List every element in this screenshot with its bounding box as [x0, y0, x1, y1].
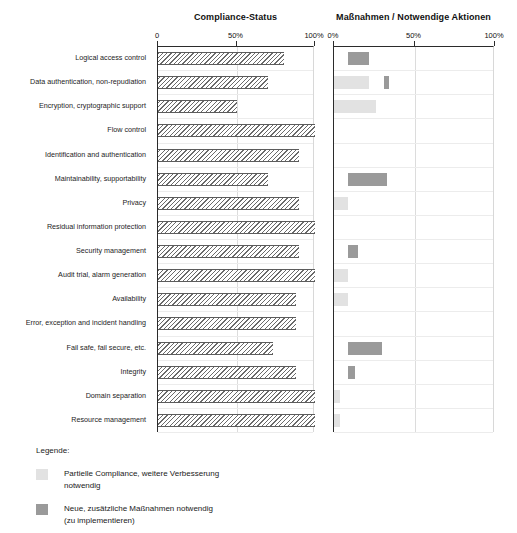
- category-label: Data authentication, non-repudiation: [30, 70, 146, 94]
- category-label: Flow control: [107, 118, 146, 142]
- action-bar-new-measures: [384, 76, 389, 89]
- legend: Legende: Partielle Compliance, weitere V…: [36, 446, 336, 533]
- row-divider: [158, 432, 313, 433]
- table-row: [158, 47, 313, 71]
- table-row: [158, 264, 313, 288]
- table-row: [158, 337, 313, 361]
- table-row: [158, 119, 313, 143]
- table-row: [334, 71, 493, 95]
- category-label: Domain separation: [86, 384, 146, 408]
- table-row: [158, 192, 313, 216]
- legend-swatch: [36, 469, 48, 480]
- right-axis-tickmark-0: [333, 41, 334, 46]
- right-axis-tick-0: 0%: [328, 31, 339, 40]
- left-axis-tickmark-100: [314, 41, 315, 46]
- category-label: Audit trial, alarm generation: [58, 263, 146, 287]
- action-bar-new-measures: [348, 366, 354, 379]
- left-chart-title: Compliance-Status: [157, 12, 314, 22]
- right-axis-tickmark-100: [494, 41, 495, 46]
- compliance-bar: [158, 366, 296, 379]
- compliance-bar: [158, 293, 296, 306]
- table-row: [334, 144, 493, 168]
- table-row: [334, 192, 493, 216]
- action-bar-partial-compliance: [334, 100, 376, 113]
- table-row: [334, 216, 493, 240]
- compliance-bar: [158, 342, 273, 355]
- category-label: Error, exception and incident handling: [26, 311, 146, 335]
- table-row: [158, 95, 313, 119]
- compliance-bar: [158, 124, 315, 137]
- compliance-bar: [158, 221, 315, 234]
- compliance-status-plot: [157, 46, 314, 432]
- action-bar-new-measures: [348, 52, 369, 65]
- action-bar-partial-compliance: [334, 390, 340, 403]
- action-bar-new-measures: [348, 342, 382, 355]
- category-label: Logical access control: [75, 46, 146, 70]
- compliance-bar: [158, 269, 315, 282]
- category-label: Privacy: [122, 191, 146, 215]
- table-row: [334, 95, 493, 119]
- action-bar-new-measures: [348, 245, 358, 258]
- category-label: Residual information protection: [47, 215, 146, 239]
- category-label: Fail safe, fail secure, etc.: [67, 336, 147, 360]
- action-bar-partial-compliance: [334, 76, 369, 89]
- table-row: [158, 71, 313, 95]
- action-bar-partial-compliance: [334, 197, 348, 210]
- right-axis-tick-100: 100%: [484, 31, 503, 40]
- actions-plot: [333, 46, 494, 432]
- compliance-bar: [158, 76, 268, 89]
- chart-page: Compliance-Status Maßnahmen / Notwendige…: [0, 0, 517, 533]
- legend-title: Legende:: [36, 446, 336, 455]
- action-bar-new-measures: [348, 173, 387, 186]
- table-row: [334, 337, 493, 361]
- left-axis-tickmark-0: [157, 41, 158, 46]
- legend-label: Neue, zusätzliche Maßnahmen notwendig (z…: [64, 503, 336, 526]
- table-row: [334, 361, 493, 385]
- right-axis-tickmark-50: [414, 41, 415, 46]
- compliance-bar: [158, 100, 237, 113]
- compliance-bar: [158, 197, 299, 210]
- compliance-bar: [158, 414, 315, 427]
- left-axis-tickmark-50: [236, 41, 237, 46]
- table-row: [158, 168, 313, 192]
- table-row: [334, 312, 493, 336]
- table-row: [334, 409, 493, 433]
- category-label: Maintainability, supportability: [55, 167, 146, 191]
- right-chart-title: Maßnahmen / Notwendige Aktionen: [333, 12, 494, 22]
- left-bar-rows: [158, 47, 313, 432]
- right-axis-tick-50: 50%: [406, 31, 421, 40]
- table-row: [158, 288, 313, 312]
- compliance-bar: [158, 52, 284, 65]
- table-row: [158, 240, 313, 264]
- action-bar-partial-compliance: [334, 269, 348, 282]
- table-row: [334, 168, 493, 192]
- compliance-bar: [158, 173, 268, 186]
- legend-label: Partielle Compliance, weitere Verbesseru…: [64, 468, 336, 491]
- legend-items: Partielle Compliance, weitere Verbesseru…: [36, 468, 336, 526]
- table-row: [334, 288, 493, 312]
- row-divider: [334, 432, 493, 433]
- legend-item: Neue, zusätzliche Maßnahmen notwendig (z…: [36, 503, 336, 526]
- compliance-bar: [158, 245, 299, 258]
- category-label: Identification and authentication: [45, 143, 146, 167]
- legend-item: Partielle Compliance, weitere Verbesseru…: [36, 468, 336, 491]
- table-row: [334, 385, 493, 409]
- table-row: [158, 312, 313, 336]
- action-bar-partial-compliance: [334, 414, 340, 427]
- table-row: [158, 144, 313, 168]
- table-row: [158, 216, 313, 240]
- table-row: [334, 47, 493, 71]
- category-axis-labels: Logical access controlData authenticatio…: [0, 46, 152, 432]
- table-row: [158, 385, 313, 409]
- right-bar-rows: [334, 47, 493, 432]
- category-label: Availability: [112, 287, 146, 311]
- category-label: Integrity: [120, 360, 146, 384]
- action-bar-partial-compliance: [334, 293, 348, 306]
- category-label: Encryption, cryptographic support: [39, 94, 146, 118]
- right-axis-tick-labels: 0%50%100%: [0, 31, 517, 43]
- table-row: [334, 240, 493, 264]
- table-row: [158, 409, 313, 433]
- table-row: [334, 264, 493, 288]
- category-label: Resource management: [71, 408, 146, 432]
- compliance-bar: [158, 390, 315, 403]
